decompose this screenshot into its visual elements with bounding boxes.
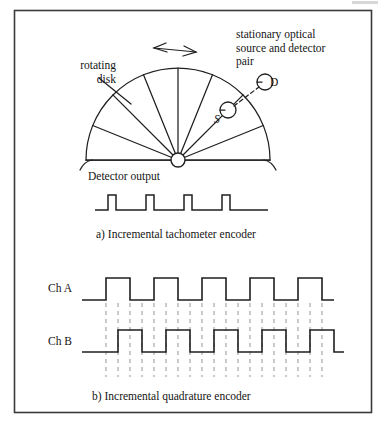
channel-a-label: Ch A: [48, 282, 72, 296]
channel-b-label: Ch B: [48, 335, 72, 349]
detector-label: D: [270, 76, 278, 90]
stationary-pair-label: stationary optical source and detector p…: [236, 28, 376, 69]
panel-b-caption: b) Incremental quadrature encoder: [92, 390, 251, 404]
disk-hub: [171, 153, 185, 167]
rotating-disk-label: rotating disk: [58, 59, 116, 86]
figure-root: rotating disk stationary optical source …: [0, 0, 382, 428]
source-label: S: [214, 113, 220, 127]
detector-output-label: Detector output: [88, 170, 160, 184]
panel-a-caption: a) Incremental tachometer encoder: [96, 228, 256, 242]
